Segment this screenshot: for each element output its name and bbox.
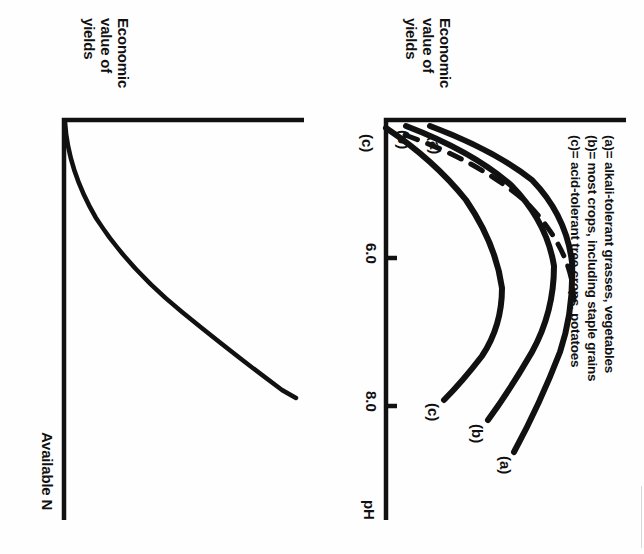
ph-curve-start-label-a: (a) — [427, 136, 444, 154]
ph-curve-start-label-b: (b) — [395, 130, 412, 149]
nitrogen-x-axis-title: Available N — [39, 432, 56, 510]
ph-panel: Economic value of yields pH 6.0 8.0 (a)=… — [322, 0, 644, 554]
nitrogen-y-axis-title: Economic value of yields — [81, 18, 132, 118]
ph-curve-start-label-c: (c) — [359, 134, 376, 152]
ph-curve-label-b: (b) — [469, 424, 486, 443]
ph-legend-line-a: (a)= alkali-tolerant grasses, vegetables — [601, 135, 618, 373]
nitrogen-axis-lines — [64, 120, 304, 520]
ph-legend-line-c: (c)= acid-tolerant tree crops, potatoes — [567, 135, 584, 367]
ph-curve-c — [386, 128, 502, 400]
ph-tick-label-8: 8.0 — [363, 391, 380, 412]
rotated-figure-stage: Economic value of yields pH 6.0 8.0 (a)=… — [0, 0, 644, 554]
ph-curve-label-a: (a) — [497, 456, 514, 474]
ph-y-axis-title: Economic value of yields — [403, 18, 454, 118]
ph-curve-label-c: (c) — [425, 403, 442, 421]
ph-x-axis-title: pH — [361, 500, 378, 520]
figure-page: Economic value of yields pH 6.0 8.0 (a)=… — [0, 0, 644, 554]
ph-tick-label-6: 6.0 — [363, 243, 380, 264]
nitrogen-panel: Economic value of yields Available N — [0, 0, 322, 554]
nitrogen-curve — [65, 122, 296, 398]
ph-legend-line-b: (b)= most crops, including staple grains — [584, 135, 601, 381]
